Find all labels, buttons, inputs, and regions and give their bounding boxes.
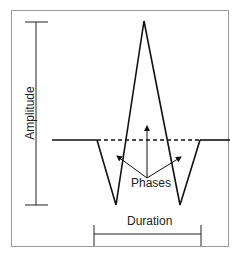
duration-label: Duration [127,214,172,228]
phases-label: Phases [131,176,171,190]
duration-bar [94,225,201,246]
amplitude-label: Amplitude [23,86,37,139]
